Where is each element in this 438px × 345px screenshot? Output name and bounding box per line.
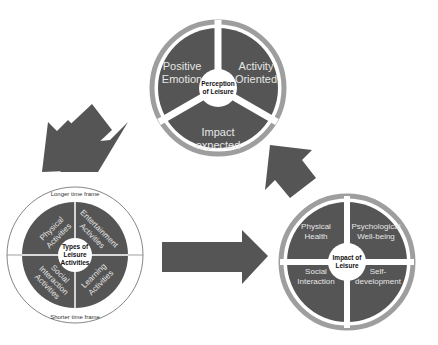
types-center-label: Types of	[62, 243, 89, 251]
impact-cycle: Impact of Leisure Physical Health Psycho…	[280, 196, 414, 328]
perception-center-label: Perception	[201, 80, 235, 88]
segment-social-interaction: Social	[305, 267, 327, 276]
svg-text:Health: Health	[304, 232, 327, 241]
svg-text:Well-being: Well-being	[357, 232, 395, 241]
svg-text:Leisure: Leisure	[335, 262, 359, 269]
segment-impact-expected: Impact	[201, 126, 234, 138]
arrow-impact-to-perception	[265, 145, 316, 198]
svg-text:Oriented: Oriented	[235, 73, 277, 85]
segment-activity-oriented: Activity	[239, 60, 274, 72]
svg-text:Leisure: Leisure	[63, 251, 87, 258]
svg-text:Interaction: Interaction	[297, 277, 334, 286]
types-cycle: Longer time frame Shorter time frame Typ…	[7, 187, 143, 323]
segment-psychological-well-being: Psychological	[352, 222, 401, 231]
svg-text:Activities: Activities	[61, 259, 90, 266]
segment-self-development: Self-	[370, 267, 387, 276]
shorter-time-frame-label: Shorter time frame	[50, 314, 100, 320]
leisure-cycle-diagram: Perception of Leisure Positive Emotion A…	[0, 0, 438, 345]
impact-center-label: Impact of	[333, 254, 363, 262]
svg-text:development: development	[355, 277, 402, 286]
arrow-types-to-impact	[162, 230, 268, 284]
svg-text:of Leisure: of Leisure	[202, 88, 233, 95]
svg-text:expected: expected	[196, 139, 241, 151]
svg-text:Emotion: Emotion	[162, 73, 202, 85]
perception-cycle: Perception of Leisure Positive Emotion A…	[152, 20, 284, 154]
segment-physical-health: Physical	[301, 222, 331, 231]
longer-time-frame-label: Longer time frame	[51, 191, 100, 197]
segment-positive-emotion: Positive	[163, 60, 202, 72]
